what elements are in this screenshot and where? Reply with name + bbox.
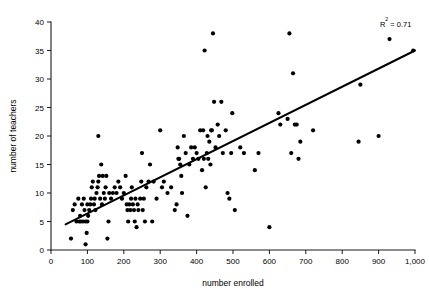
- data-point: [114, 191, 118, 195]
- data-point: [92, 202, 96, 206]
- data-point: [85, 231, 89, 235]
- data-point: [71, 208, 75, 212]
- data-point: [210, 128, 214, 132]
- data-point: [104, 185, 108, 189]
- data-point: [211, 31, 215, 35]
- chart-svg: 0510152025303540 01002003004005006007008…: [0, 0, 429, 296]
- data-point: [90, 185, 94, 189]
- data-point: [212, 100, 216, 104]
- data-point: [200, 168, 204, 172]
- data-point: [138, 197, 142, 201]
- data-point: [91, 180, 95, 184]
- data-point: [296, 157, 300, 161]
- data-point: [189, 145, 193, 149]
- data-point: [204, 185, 208, 189]
- data-point: [127, 202, 131, 206]
- data-point: [201, 128, 205, 132]
- data-point: [256, 151, 260, 155]
- data-point: [193, 145, 197, 149]
- data-point: [356, 140, 360, 144]
- data-point: [208, 162, 212, 166]
- data-point: [88, 202, 92, 206]
- data-point: [93, 197, 97, 201]
- data-point: [276, 111, 280, 115]
- data-point: [377, 134, 381, 138]
- x-tick-label: 100: [81, 257, 95, 266]
- data-point: [140, 151, 144, 155]
- data-point: [82, 208, 86, 212]
- y-axis-title: number of teachers: [8, 99, 18, 172]
- data-point: [217, 134, 221, 138]
- scatter-chart: 0510152025303540 01002003004005006007008…: [0, 0, 429, 296]
- y-tick-label: 10: [35, 189, 44, 198]
- data-point: [148, 162, 152, 166]
- y-tick-label: 20: [35, 132, 44, 141]
- data-point: [111, 191, 115, 195]
- data-point: [130, 185, 134, 189]
- data-point: [233, 208, 237, 212]
- linear-regression-line: [66, 51, 415, 225]
- data-point: [99, 162, 103, 166]
- data-point: [129, 197, 133, 201]
- y-tick-label: 0: [40, 246, 45, 255]
- data-point: [267, 225, 271, 229]
- x-tick-label: 700: [299, 257, 313, 266]
- data-point: [116, 180, 120, 184]
- x-tick-label: 300: [154, 257, 168, 266]
- x-tick-label: 600: [263, 257, 277, 266]
- data-point: [154, 197, 158, 201]
- data-point: [173, 208, 177, 212]
- data-point: [206, 157, 210, 161]
- data-point: [298, 140, 302, 144]
- data-point: [225, 191, 229, 195]
- data-point: [311, 128, 315, 132]
- data-point: [80, 202, 84, 206]
- data-point: [177, 157, 181, 161]
- data-point: [103, 197, 107, 201]
- data-point: [134, 225, 138, 229]
- axes-group: [51, 22, 415, 250]
- data-point: [101, 174, 105, 178]
- y-tick-label: 25: [35, 104, 44, 113]
- data-point: [143, 219, 147, 223]
- y-tick-label: 30: [35, 75, 44, 84]
- data-point: [185, 214, 189, 218]
- data-point: [387, 37, 391, 41]
- data-point: [124, 174, 128, 178]
- data-point: [126, 219, 130, 223]
- data-point: [98, 197, 102, 201]
- data-point: [207, 140, 211, 144]
- data-point: [105, 237, 109, 241]
- x-tick-label: 200: [117, 257, 131, 266]
- data-point: [169, 185, 173, 189]
- data-point: [158, 128, 162, 132]
- data-point: [139, 180, 143, 184]
- r-squared-value: = 0.71: [388, 20, 411, 29]
- x-tick-label: 900: [372, 257, 386, 266]
- y-tick-label: 5: [40, 218, 45, 227]
- data-point: [128, 208, 132, 212]
- x-tick-label: 400: [190, 257, 204, 266]
- data-point: [89, 197, 93, 201]
- data-point: [230, 111, 234, 115]
- data-point: [174, 202, 178, 206]
- data-point: [227, 197, 231, 201]
- data-point: [286, 117, 290, 121]
- data-point: [238, 145, 242, 149]
- data-point: [118, 185, 122, 189]
- data-point: [133, 219, 137, 223]
- data-point: [242, 151, 246, 155]
- data-point: [104, 174, 108, 178]
- data-point: [95, 185, 99, 189]
- data-point: [82, 197, 86, 201]
- y-tick-label: 40: [35, 18, 44, 27]
- data-point: [184, 151, 188, 155]
- y-tick-label: 35: [35, 47, 44, 56]
- data-point: [96, 134, 100, 138]
- data-point: [278, 123, 282, 127]
- data-point: [133, 197, 137, 201]
- data-point: [176, 145, 180, 149]
- x-tick-label: 500: [226, 257, 240, 266]
- data-point: [216, 123, 220, 127]
- data-point: [160, 185, 164, 189]
